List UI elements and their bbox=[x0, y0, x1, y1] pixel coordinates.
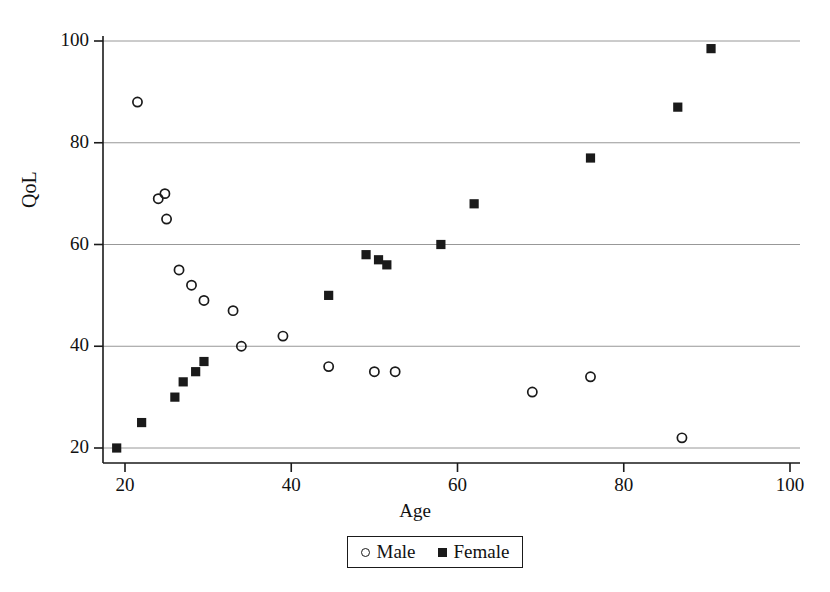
legend-item-male: Male bbox=[361, 541, 416, 563]
data-point-male bbox=[528, 387, 537, 396]
series-female-points bbox=[112, 44, 716, 453]
data-point-female bbox=[199, 357, 208, 366]
data-point-male bbox=[370, 367, 379, 376]
filled-square-marker-icon bbox=[438, 548, 447, 557]
data-point-female bbox=[706, 44, 715, 53]
data-point-male bbox=[199, 296, 208, 305]
data-point-female bbox=[382, 260, 391, 269]
x-tick-label: 100 bbox=[760, 474, 820, 496]
x-tick-label: 80 bbox=[594, 474, 654, 496]
data-point-male bbox=[324, 362, 333, 371]
data-point-male bbox=[187, 281, 196, 290]
legend-item-female: Female bbox=[438, 541, 510, 563]
x-axis-ticks bbox=[125, 463, 790, 472]
x-axis-label: Age bbox=[0, 500, 830, 522]
data-point-female bbox=[179, 377, 188, 386]
data-point-male bbox=[391, 367, 400, 376]
data-point-male bbox=[278, 331, 287, 340]
y-tick-label: 100 bbox=[29, 29, 89, 51]
data-point-female bbox=[470, 199, 479, 208]
y-tick-label: 60 bbox=[29, 233, 89, 255]
x-tick-label: 40 bbox=[261, 474, 321, 496]
y-axis-label: QoL bbox=[18, 171, 41, 208]
legend-label-female: Female bbox=[454, 541, 510, 563]
data-point-female bbox=[112, 443, 121, 452]
y-tick-label: 80 bbox=[29, 131, 89, 153]
x-tick-label: 60 bbox=[428, 474, 488, 496]
data-point-female bbox=[586, 153, 595, 162]
data-point-male bbox=[677, 433, 686, 442]
data-point-female bbox=[324, 291, 333, 300]
data-point-female bbox=[361, 250, 370, 259]
data-point-male bbox=[586, 372, 595, 381]
data-point-female bbox=[137, 418, 146, 427]
x-tick-label: 20 bbox=[95, 474, 155, 496]
data-point-male bbox=[228, 306, 237, 315]
data-point-male bbox=[162, 214, 171, 223]
axis-lines bbox=[103, 36, 800, 463]
data-point-female bbox=[191, 367, 200, 376]
y-axis-ticks bbox=[94, 41, 103, 448]
data-point-male bbox=[174, 265, 183, 274]
scatter-chart: QoL Age 2040608010020406080100 Male Fema… bbox=[0, 0, 830, 592]
series-male-points bbox=[133, 97, 687, 442]
gridlines bbox=[103, 41, 800, 448]
data-point-female bbox=[673, 103, 682, 112]
open-circle-marker-icon bbox=[361, 548, 370, 557]
data-point-female bbox=[436, 240, 445, 249]
legend: Male Female bbox=[347, 536, 523, 568]
legend-label-male: Male bbox=[377, 541, 416, 563]
y-tick-label: 40 bbox=[29, 334, 89, 356]
data-point-female bbox=[170, 393, 179, 402]
data-point-male bbox=[133, 97, 142, 106]
data-point-female bbox=[374, 255, 383, 264]
y-tick-label: 20 bbox=[29, 436, 89, 458]
data-point-male bbox=[160, 189, 169, 198]
